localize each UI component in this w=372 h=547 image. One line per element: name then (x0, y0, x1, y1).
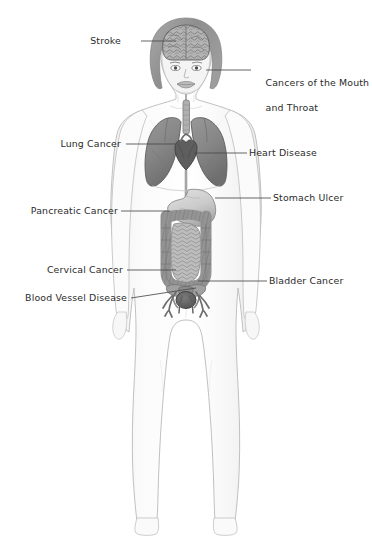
anatomy-diagram: Stroke Cancers of the Mouth and Throat L… (0, 0, 372, 547)
callout-label-cervical-cancer: Cervical Cancer (20, 264, 123, 277)
callout-label-pancreatic-cancer: Pancreatic Cancer (10, 205, 118, 218)
callout-label-bladder-cancer: Bladder Cancer (269, 275, 369, 288)
right-foot (213, 518, 237, 535)
left-pupil (174, 66, 177, 69)
callout-label-stroke: Stroke (17, 35, 121, 48)
callout-label-stomach-ulcer: Stomach Ulcer (273, 192, 371, 205)
transverse-colon (167, 215, 205, 220)
left-foot (135, 518, 159, 535)
callout-label-blood-vessel-disease: Blood Vessel Disease (8, 292, 127, 305)
right-pupil (195, 66, 198, 69)
callout-label-mouth-throat: Cancers of the Mouth and Throat (253, 64, 371, 127)
small-intestine (171, 223, 201, 282)
callout-label-mouth-throat-line2: and Throat (266, 102, 319, 113)
callout-label-mouth-throat-line1: Cancers of the Mouth (266, 77, 370, 88)
right-hand (245, 312, 259, 339)
left-hand (113, 312, 127, 339)
callout-label-lung-cancer: Lung Cancer (17, 138, 121, 151)
callout-label-heart-disease: Heart Disease (249, 147, 369, 160)
